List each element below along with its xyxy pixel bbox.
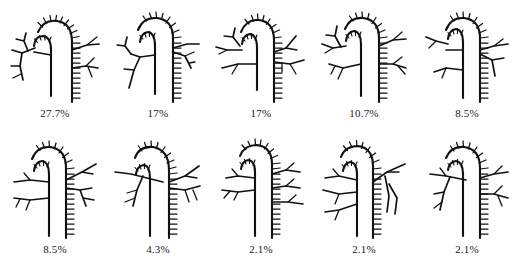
aortic-arch-variant-5-icon bbox=[416, 6, 518, 104]
aortic-arch-variant-2-icon bbox=[107, 6, 209, 104]
variant-cell-6[interactable]: 8.5% bbox=[4, 130, 106, 270]
aortic-arch-variant-10-icon bbox=[416, 136, 518, 240]
variant-percent-label: 27.7% bbox=[40, 107, 69, 120]
variant-cell-9[interactable]: 2.1% bbox=[313, 130, 415, 270]
variant-percent-label: 17% bbox=[148, 107, 169, 120]
variant-percent-label: 2.1% bbox=[352, 243, 376, 256]
aortic-arch-variant-1-icon bbox=[4, 6, 106, 104]
variant-row-top: 27.7% bbox=[0, 0, 522, 130]
variant-cell-4[interactable]: 10.7% bbox=[313, 0, 415, 130]
variant-percent-label: 17% bbox=[251, 107, 272, 120]
aortic-arch-variant-6-icon bbox=[4, 136, 106, 240]
variant-percent-label: 8.5% bbox=[455, 107, 479, 120]
variant-percent-label: 2.1% bbox=[249, 243, 273, 256]
aortic-arch-variant-4-icon bbox=[313, 6, 415, 104]
variant-row-bottom: 8.5% bbox=[0, 130, 522, 270]
variant-cell-8[interactable]: 2.1% bbox=[210, 130, 312, 270]
variant-cell-5[interactable]: 8.5% bbox=[416, 0, 518, 130]
figure-panel: 27.7% bbox=[0, 0, 522, 270]
aortic-arch-variant-3-icon bbox=[210, 6, 312, 104]
variant-cell-7[interactable]: 4.3% bbox=[107, 130, 209, 270]
variant-percent-label: 8.5% bbox=[43, 243, 67, 256]
variant-percent-label: 2.1% bbox=[455, 243, 479, 256]
aortic-arch-variant-9-icon bbox=[313, 136, 415, 240]
variant-cell-3[interactable]: 17% bbox=[210, 0, 312, 130]
variant-percent-label: 4.3% bbox=[146, 243, 170, 256]
aortic-arch-variant-7-icon bbox=[107, 136, 209, 240]
variant-percent-label: 10.7% bbox=[349, 107, 378, 120]
variant-cell-10[interactable]: 2.1% bbox=[416, 130, 518, 270]
aortic-arch-variant-8-icon bbox=[210, 136, 312, 240]
variant-cell-2[interactable]: 17% bbox=[107, 0, 209, 130]
variant-cell-1[interactable]: 27.7% bbox=[4, 0, 106, 130]
